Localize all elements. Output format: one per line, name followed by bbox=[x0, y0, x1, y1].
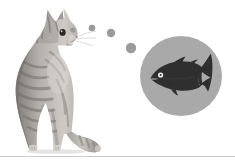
cat-ground-shadow bbox=[26, 149, 86, 153]
thought-dot-2 bbox=[89, 25, 96, 32]
illustration-canvas: Cat thinking about a fish bbox=[0, 0, 235, 164]
thought-dot-4 bbox=[126, 43, 136, 53]
cat-eye-highlight bbox=[61, 30, 63, 32]
cat-front-paw-left bbox=[29, 145, 37, 151]
thought-dot-1 bbox=[70, 27, 75, 32]
thought-dot-3 bbox=[107, 29, 115, 37]
cat-tail-tip bbox=[95, 145, 101, 152]
cat-eye bbox=[60, 29, 66, 36]
cat-thinking-of-fish-illustration: Cat thinking about a fish bbox=[0, 0, 235, 164]
fish-pupil bbox=[160, 74, 162, 76]
thought-bubble bbox=[140, 36, 222, 116]
